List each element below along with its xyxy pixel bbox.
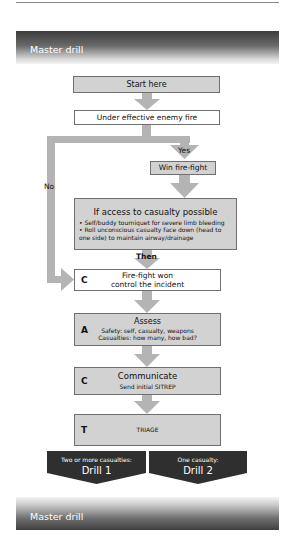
- access-bullet: • Roll unconscious casualty face down (h…: [79, 226, 232, 241]
- assess-letter: A: [81, 325, 88, 335]
- no-branch-bar: [47, 136, 55, 280]
- assess-title: Assess: [134, 318, 161, 326]
- assess-box: A Assess Safety: self, casualty, weapons…: [74, 313, 221, 346]
- down-arrow-icon: [134, 346, 160, 367]
- access-bullet: • Self/buddy tourniquet for severe limb …: [79, 219, 225, 227]
- drill-2-button[interactable]: One casualty: Drill 2: [149, 451, 247, 484]
- control-letter: C: [81, 275, 88, 285]
- triage-letter: T: [81, 425, 87, 435]
- down-arrow-icon: [134, 291, 160, 313]
- communicate-line1: Send initial SITREP: [119, 383, 175, 391]
- win-firefight-label: Win fire-fight: [159, 164, 208, 172]
- under-fire-box: Under effective enemy fire: [74, 110, 220, 125]
- control-line1: Fire-fight won: [122, 272, 173, 280]
- communicate-title: Communicate: [118, 372, 177, 381]
- win-firefight-box: Win fire-fight: [150, 161, 216, 175]
- start-box: Start here: [73, 76, 220, 93]
- branch-bar: [47, 136, 190, 143]
- communicate-box: C Communicate Send initial SITREP: [74, 367, 221, 395]
- drill-1-button[interactable]: Two or more casualties: Drill 1: [47, 451, 146, 484]
- drill-1-name: Drill 1: [47, 465, 146, 476]
- control-box: C Fire-fight won control the incident: [74, 269, 221, 291]
- start-label: Start here: [126, 81, 166, 89]
- down-arrow-icon: [134, 93, 160, 110]
- header-banner: Master drill: [16, 31, 279, 64]
- footer-banner: Master drill: [16, 497, 279, 530]
- access-box: If access to casualty possible • Self/bu…: [74, 198, 237, 250]
- access-title: If access to casualty possible: [79, 207, 232, 217]
- control-line2: control the incident: [111, 281, 184, 289]
- footer-title: Master drill: [30, 511, 83, 522]
- no-arrow-icon: [47, 266, 75, 292]
- yes-label: Yes: [178, 146, 190, 155]
- down-arrow-icon: [170, 175, 199, 198]
- no-label: No: [44, 182, 54, 191]
- triage-title: TRIAGE: [136, 426, 158, 434]
- assess-line1: Safety: self, casualty, weapons: [101, 327, 194, 335]
- then-label: Then: [136, 252, 157, 261]
- drill-2-name: Drill 2: [149, 465, 247, 476]
- drill-1-caption: Two or more casualties:: [47, 451, 146, 463]
- triage-box: T TRIAGE: [74, 414, 221, 446]
- assess-line2: Casualties: how many, how bad?: [98, 334, 197, 342]
- top-rule: [16, 2, 279, 3]
- header-title: Master drill: [30, 44, 83, 55]
- down-arrow-icon: [134, 395, 160, 414]
- drill-2-caption: One casualty:: [149, 451, 247, 463]
- under-fire-label: Under effective enemy fire: [97, 114, 197, 122]
- communicate-letter: C: [81, 376, 88, 386]
